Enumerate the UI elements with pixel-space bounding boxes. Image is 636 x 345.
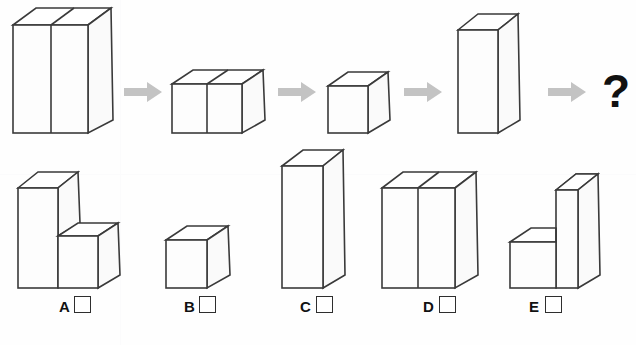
arrow-1: [124, 82, 162, 102]
arrow-2: [278, 82, 316, 102]
option-label-b: B: [184, 299, 195, 314]
option-checkbox-b[interactable]: [199, 296, 216, 313]
arrow-3: [404, 82, 442, 102]
option-label-a: A: [59, 299, 70, 314]
sequence-shape-4: [458, 14, 520, 133]
option-label-c: C: [300, 299, 311, 314]
arrow-4: [548, 82, 586, 102]
puzzle-artwork: [0, 0, 636, 345]
option-checkbox-c[interactable]: [316, 296, 333, 313]
puzzle-canvas: ? A B C D E: [0, 0, 636, 345]
option-label-d: D: [423, 299, 434, 314]
question-mark: ?: [602, 68, 630, 114]
sequence-shape-2: [172, 70, 265, 133]
option-shape-b[interactable]: [166, 226, 230, 288]
sequence-shape-1: [13, 8, 113, 133]
option-checkbox-d[interactable]: [439, 296, 456, 313]
sequence-shape-3: [328, 72, 390, 133]
option-shape-a[interactable]: [18, 172, 120, 288]
option-label-e: E: [529, 299, 539, 314]
option-shape-d[interactable]: [382, 172, 478, 288]
option-shape-c[interactable]: [282, 150, 345, 288]
option-checkbox-a[interactable]: [74, 296, 91, 313]
option-checkbox-e[interactable]: [545, 296, 562, 313]
option-shape-e[interactable]: [510, 174, 600, 288]
puzzle-page: ? A B C D E: [0, 0, 636, 345]
